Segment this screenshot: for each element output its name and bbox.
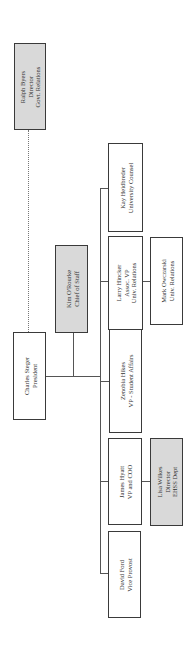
node-title: Director	[163, 467, 171, 498]
node-dept: Univ. Relations	[129, 263, 137, 303]
node-name: Kim O'Rourke	[64, 270, 72, 308]
node-name: Lisa Wilkes	[155, 467, 163, 498]
node-title: VP and COO	[125, 464, 133, 498]
node-kay-heidbreder: Kay Heidbreder University Counsel	[108, 143, 143, 232]
node-james-hyatt: James Hyatt VP and COO	[108, 438, 142, 525]
node-title: President	[30, 357, 38, 395]
connector-kim	[73, 333, 74, 376]
connector-larry-mark	[143, 281, 150, 282]
node-title: Director	[26, 66, 34, 107]
connector-charles-bus	[46, 376, 101, 377]
node-name: Ralph Byers	[19, 66, 27, 107]
dotted-connector-ralph-charles	[28, 130, 29, 332]
connector-james-lisa	[142, 481, 150, 482]
node-title: Chief of Staff	[72, 270, 80, 308]
connector-zenobia	[100, 381, 109, 382]
connector-david	[100, 573, 108, 574]
node-mark-owczarski: Mark Owczarski Univ. Relations	[150, 237, 183, 325]
node-lisa-wilkes: Lisa Wilkes Director EHSS Dept	[150, 438, 183, 526]
node-ralph-byers: Ralph Byers Director Govt. Relations	[14, 43, 46, 130]
connector-james	[100, 481, 108, 482]
node-name: Kay Heidbreder	[118, 162, 126, 212]
node-name: Charles Steger	[22, 357, 30, 395]
node-name: Larry Hincker	[114, 263, 122, 303]
node-title: University Counsel	[126, 162, 134, 212]
node-title: Univ. Relations	[167, 259, 175, 303]
node-name: Zenobia Hikes	[118, 355, 126, 408]
node-dept: EHSS Dept	[170, 467, 178, 498]
node-title: VP - Student Affairs	[126, 355, 134, 408]
node-name: David Ford	[117, 558, 125, 591]
node-charles-steger: Charles Steger President	[13, 332, 46, 420]
connector-kay	[100, 188, 108, 189]
node-larry-hincker: Larry Hincker Assoc. VP Univ. Relations	[108, 236, 143, 330]
node-name: James Hyatt	[118, 464, 126, 498]
node-title: Vice Provost	[125, 558, 133, 591]
node-david-ford: David Ford Vice Provost	[108, 531, 141, 618]
node-title: Assoc. VP	[122, 263, 130, 303]
node-name: Mark Owczarski	[159, 259, 167, 303]
node-zenobia-hikes: Zenobia Hikes VP - Student Affairs	[109, 329, 142, 433]
node-dept: Govt. Relations	[34, 66, 42, 107]
node-kim-orourke: Kim O'Rourke Chief of Staff	[55, 245, 88, 333]
connector-larry	[100, 281, 108, 282]
